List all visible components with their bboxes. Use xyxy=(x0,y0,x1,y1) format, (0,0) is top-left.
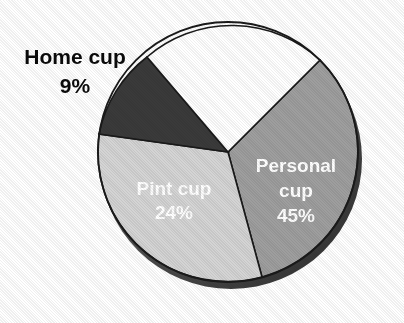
pie-label-personal-cup-name-1: Personal xyxy=(256,155,336,176)
pie-chart: Others 22% Personal cup 45% Pint cup 24%… xyxy=(0,0,404,323)
pie-label-others-name: Others xyxy=(199,60,260,81)
pie-label-home-cup-name: Home cup xyxy=(24,45,126,68)
pie-label-personal-cup-name-2: cup xyxy=(279,180,313,201)
pie-label-pint-cup-value: 24% xyxy=(155,202,193,223)
pie-label-home-cup-value: 9% xyxy=(60,74,91,97)
pie-label-others-value: 22% xyxy=(211,84,249,105)
pie-label-pint-cup-name: Pint cup xyxy=(137,178,212,199)
pie-label-home-cup: Home cup 9% xyxy=(24,45,126,97)
pie-chart-svg: Others 22% Personal cup 45% Pint cup 24%… xyxy=(0,0,404,323)
pie-label-personal-cup-value: 45% xyxy=(277,205,315,226)
